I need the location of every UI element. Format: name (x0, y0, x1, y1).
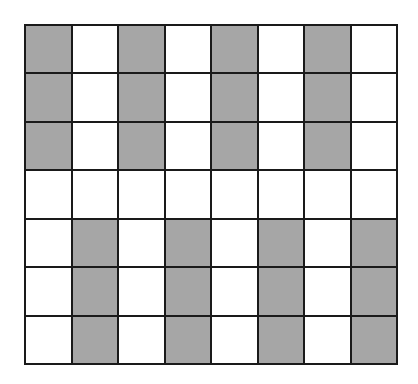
grid-cell-shaded (166, 220, 211, 266)
grid-cell-shaded (73, 317, 118, 363)
grid-cell-shaded (166, 317, 211, 363)
grid-cell-empty (352, 171, 397, 217)
grid-cell-shaded (305, 26, 350, 72)
grid-cell-shaded (305, 74, 350, 120)
grid-cell-empty (166, 74, 211, 120)
grid-cell-empty (26, 317, 71, 363)
grid-cell-empty (212, 317, 257, 363)
grid-cell-empty (119, 268, 164, 314)
grid-cell-empty (119, 317, 164, 363)
grid-cell-shaded (352, 220, 397, 266)
grid-cell-empty (26, 268, 71, 314)
grid-cell-shaded (212, 26, 257, 72)
grid-cell-shaded (305, 123, 350, 169)
grid-cell-empty (119, 220, 164, 266)
grid-cell-shaded (259, 220, 304, 266)
grid-cell-shaded (212, 74, 257, 120)
grid-cell-empty (73, 171, 118, 217)
grid-cell-empty (305, 317, 350, 363)
grid-cell-empty (352, 123, 397, 169)
grid-cell-empty (305, 268, 350, 314)
grid-cell-shaded (26, 26, 71, 72)
grid-cell-empty (166, 171, 211, 217)
grid-cell-empty (73, 26, 118, 72)
grid-cell-empty (352, 74, 397, 120)
grid-cell-empty (212, 268, 257, 314)
grid-cell-empty (73, 74, 118, 120)
grid-cell-shaded (166, 268, 211, 314)
shaded-grid (24, 24, 398, 365)
grid-cell-empty (212, 171, 257, 217)
grid-cell-shaded (352, 317, 397, 363)
grid-cell-empty (212, 220, 257, 266)
grid-cell-empty (119, 171, 164, 217)
grid-cell-empty (259, 26, 304, 72)
grid-cell-shaded (73, 268, 118, 314)
grid-cell-empty (26, 171, 71, 217)
grid-cell-empty (259, 123, 304, 169)
grid-cell-shaded (119, 26, 164, 72)
grid-cell-empty (166, 123, 211, 169)
grid-cell-shaded (73, 220, 118, 266)
grid-cell-shaded (119, 74, 164, 120)
grid-cell-empty (305, 171, 350, 217)
grid-cell-shaded (119, 123, 164, 169)
grid-cell-empty (166, 26, 211, 72)
grid-cell-shaded (26, 123, 71, 169)
grid-cell-shaded (259, 268, 304, 314)
grid-cell-empty (259, 74, 304, 120)
grid-cell-shaded (259, 317, 304, 363)
grid-cell-empty (352, 26, 397, 72)
grid-cell-shaded (26, 74, 71, 120)
grid-cell-shaded (352, 268, 397, 314)
grid-cell-shaded (212, 123, 257, 169)
grid-cell-empty (73, 123, 118, 169)
grid-cell-empty (259, 171, 304, 217)
grid-cell-empty (26, 220, 71, 266)
grid-cell-empty (305, 220, 350, 266)
